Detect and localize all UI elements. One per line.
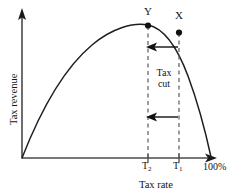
tax-cut-annotation: Tax cut [151,68,177,89]
point-y-label: Y [144,6,152,18]
tax-cut-annotation-line1: Tax [151,68,177,79]
tick-label-t1: T1 [173,161,183,172]
point-y-marker [145,22,151,28]
tax-cut-arrow-lower [146,113,178,122]
x-axis-end-label: 100% [203,162,226,173]
tax-cut-annotation-line2: cut [151,79,177,90]
point-x-label: X [175,10,183,22]
y-axis-title: Tax revenue [8,74,19,125]
point-x-marker [176,29,182,35]
tick-label-t1-sub: 1 [179,165,183,173]
tick-label-t2: T2 [142,161,152,172]
x-axis [22,154,217,163]
y-axis [18,8,26,158]
tick-label-t2-sub: 2 [148,165,152,173]
x-axis-title: Tax rate [139,179,173,190]
laffer-curve-figure: Y X Tax cut T2 T1 100% Tax rate Tax reve… [0,0,241,195]
laffer-curve [22,24,211,158]
tax-cut-arrow-upper [146,43,178,52]
